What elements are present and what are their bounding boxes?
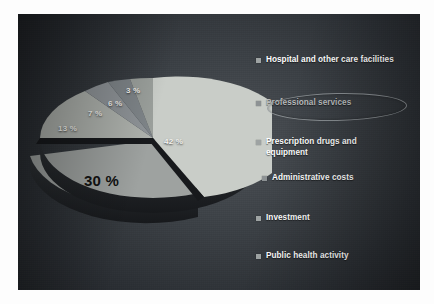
pie-label-7: 7 % — [88, 109, 102, 118]
photo-frame: 42 % 30 % 13 % 7 % 6 % 3 % Hospital and … — [0, 0, 434, 304]
legend-item-administrative-costs[interactable]: Administrative costs — [262, 172, 354, 183]
legend-item-label: Administrative costs — [272, 172, 354, 183]
legend-swatch-icon — [256, 58, 261, 63]
legend-swatch-icon — [256, 216, 261, 221]
legend-item-label: Hospital and other care facilities — [266, 54, 394, 65]
legend-swatch-icon — [256, 101, 261, 106]
legend-item-professional-services[interactable]: Professional services — [256, 97, 351, 108]
pie-chart-svg — [22, 58, 272, 248]
legend-item-label: Investment — [266, 212, 310, 223]
pie-label-3: 3 % — [126, 86, 140, 95]
legend-item-public-health-activity[interactable]: Public health activity — [256, 250, 349, 261]
legend-swatch-icon — [256, 254, 261, 259]
legend-item-label: Professional services — [266, 97, 351, 108]
legend-item-investment[interactable]: Investment — [256, 212, 310, 223]
pie-chart[interactable]: 42 % 30 % 13 % 7 % 6 % 3 % — [22, 58, 272, 248]
legend-item-hospital-and-other-care-facilities[interactable]: Hospital and other care facilities — [256, 54, 394, 65]
pie-label-30: 30 % — [84, 172, 119, 189]
pie-label-6: 6 % — [108, 99, 122, 108]
legend-swatch-icon — [256, 140, 261, 145]
legend-item-label: Public health activity — [266, 250, 349, 261]
presentation-slide: 42 % 30 % 13 % 7 % 6 % 3 % Hospital and … — [18, 14, 420, 290]
pie-label-13: 13 % — [58, 124, 77, 133]
legend-item-label: Prescription drugs and equipment — [266, 136, 366, 158]
pie-label-42: 42 % — [164, 137, 183, 146]
legend-swatch-icon — [262, 176, 267, 181]
legend-item-prescription-drugs-and-equipment[interactable]: Prescription drugs and equipment — [256, 136, 366, 158]
